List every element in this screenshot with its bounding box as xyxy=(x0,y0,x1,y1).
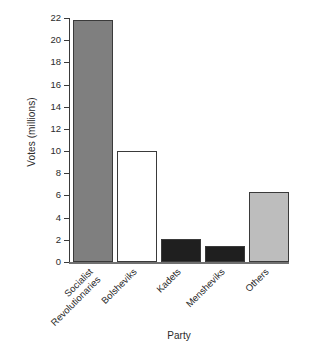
x-tick-label-0: Socialist Revolutionaries xyxy=(41,266,103,328)
y-tick-label: 20 xyxy=(37,35,61,45)
y-tick-mark xyxy=(64,173,69,174)
y-tick-mark xyxy=(64,218,69,219)
y-tick-mark xyxy=(64,195,69,196)
y-tick-mark xyxy=(64,129,69,130)
y-tick-label: 0 xyxy=(37,257,61,267)
bar-0 xyxy=(73,20,113,262)
y-tick-mark xyxy=(64,240,69,241)
y-tick-label: 22 xyxy=(37,13,61,23)
y-tick-mark xyxy=(64,107,69,108)
x-axis-title: Party xyxy=(69,330,289,341)
bar-3 xyxy=(205,246,245,262)
y-tick-label: 18 xyxy=(37,57,61,67)
x-tick-label-3: Mensheviks xyxy=(184,266,227,309)
y-tick-label: 4 xyxy=(37,213,61,223)
x-tick-label-1: Bolsheviks xyxy=(99,266,139,306)
y-tick-mark xyxy=(64,151,69,152)
y-axis-line xyxy=(69,18,70,263)
bar-chart-figure: Votes (millions) 0246810121416182022 Soc… xyxy=(0,0,310,356)
plot-area: 0246810121416182022 xyxy=(69,18,289,263)
bar-4 xyxy=(249,192,289,262)
y-tick-mark xyxy=(64,18,69,19)
bar-1 xyxy=(117,151,157,262)
bar-2 xyxy=(161,239,201,262)
x-axis-tick-labels: Socialist RevolutionariesBolsheviksKadet… xyxy=(69,266,299,328)
y-tick-label: 14 xyxy=(37,102,61,112)
x-axis-line xyxy=(69,262,289,264)
y-tick-label: 16 xyxy=(37,80,61,90)
y-tick-label: 10 xyxy=(37,146,61,156)
y-tick-mark xyxy=(64,40,69,41)
y-tick-label: 12 xyxy=(37,124,61,134)
y-tick-mark xyxy=(64,262,69,263)
y-tick-mark xyxy=(64,85,69,86)
x-tick-label-2: Kadets xyxy=(154,266,183,295)
y-tick-mark xyxy=(64,62,69,63)
y-tick-label: 6 xyxy=(37,190,61,200)
x-tick-label-4: Others xyxy=(243,266,271,294)
y-tick-label: 2 xyxy=(37,235,61,245)
y-tick-label: 8 xyxy=(37,168,61,178)
